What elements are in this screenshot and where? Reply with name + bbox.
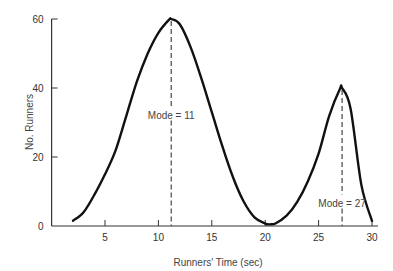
distribution-curve [73, 18, 372, 224]
mode-11-label: Mode = 11 [148, 110, 195, 121]
x-tick-label: 30 [366, 232, 378, 243]
mode-27-label: Mode = 27 [318, 198, 366, 209]
y-tick-label: 40 [32, 83, 44, 94]
mode-lines [171, 21, 342, 226]
x-tick-label: 5 [102, 232, 108, 243]
y-tick-label: 0 [38, 221, 44, 232]
y-tick-label: 60 [32, 14, 44, 25]
x-axis-title: Runners' Time (sec) [173, 257, 262, 268]
y-tick-label: 20 [32, 152, 44, 163]
y-axis-title: No. Runners [24, 94, 35, 150]
x-tick-label: 20 [260, 232, 272, 243]
x-tick-label: 10 [153, 232, 165, 243]
x-tick-label: 25 [313, 232, 325, 243]
bimodal-distribution-chart: 510152025300204060 Mode = 11 Mode = 27 R… [0, 0, 393, 271]
x-tick-label: 15 [206, 232, 218, 243]
